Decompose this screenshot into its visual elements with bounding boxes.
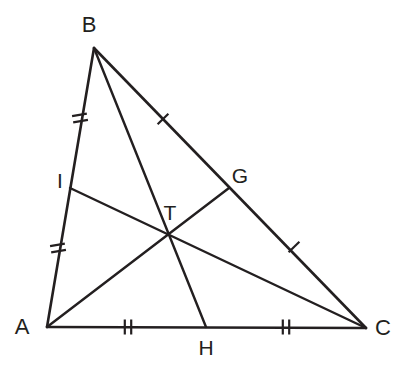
tick-stroke [72,114,87,117]
tick-stroke [73,120,88,123]
point-label-H: H [198,337,213,358]
median-AG [47,188,229,327]
tick-stroke [51,250,66,253]
point-label-I: I [57,170,63,191]
point-label-T: T [164,202,177,223]
tick-stroke [50,244,65,247]
vertex-label-A: A [15,316,30,338]
geometry-diagram: A B C G H I T [0,0,398,369]
tick-marks [50,114,299,335]
tick-AI [50,244,66,253]
point-label-G: G [232,165,248,186]
triangle-sides [47,48,366,328]
medians [47,48,366,328]
vertex-label-C: C [375,317,391,339]
median-CI [70,188,366,328]
tick-stroke [289,242,300,252]
median-BH [94,48,206,327]
tick-GC [289,242,300,252]
vertex-label-B: B [82,14,97,36]
tick-BI [72,114,88,123]
